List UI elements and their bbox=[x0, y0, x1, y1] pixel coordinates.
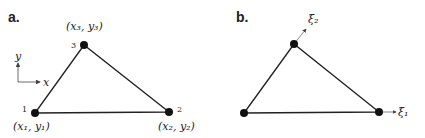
panel-b: b. ξ₁ ξ₂ bbox=[236, 9, 408, 119]
node-1-coord: (x₁, y₁) bbox=[13, 120, 50, 133]
y-axis-label: y bbox=[14, 50, 22, 63]
node-2-number: 2 bbox=[177, 105, 182, 114]
triangle-element-diagram: a. y x 1 2 3 (x₁, y₁) (x₂, y₂) (x₃, y₃) … bbox=[0, 0, 425, 138]
node-2-coord: (x₂, y₂) bbox=[158, 120, 195, 133]
node-1 bbox=[31, 109, 39, 117]
panel-b-label: b. bbox=[236, 9, 248, 25]
panel-a-label: a. bbox=[8, 9, 20, 25]
triangle-a bbox=[35, 45, 169, 113]
xi2-label: ξ₂ bbox=[308, 13, 318, 26]
node-b-3 bbox=[290, 40, 298, 48]
node-2 bbox=[165, 108, 173, 116]
node-b-1 bbox=[240, 109, 248, 117]
panel-a: a. y x 1 2 3 (x₁, y₁) (x₂, y₂) (x₃, y₃) bbox=[8, 9, 195, 133]
xy-axes: y x bbox=[14, 50, 50, 89]
triangle-b bbox=[244, 44, 379, 113]
node-3-number: 3 bbox=[71, 41, 76, 50]
node-b-2 bbox=[375, 108, 383, 116]
xi1-label: ξ₁ bbox=[398, 106, 408, 119]
node-1-number: 1 bbox=[22, 105, 27, 114]
x-axis-label: x bbox=[43, 76, 50, 89]
node-3-coord: (x₃, y₃) bbox=[66, 20, 103, 33]
node-3 bbox=[80, 41, 88, 49]
